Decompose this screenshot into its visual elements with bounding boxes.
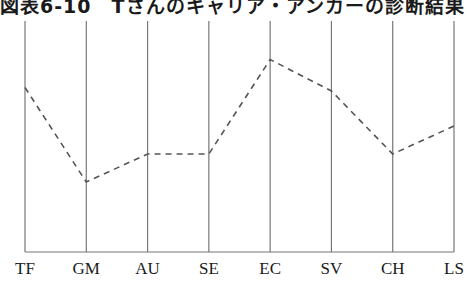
line-chart: [0, 0, 467, 297]
x-tick-label: SV: [321, 259, 343, 279]
x-tick-label: EC: [259, 259, 281, 279]
x-tick-label: TF: [15, 259, 35, 279]
x-tick-label: LS: [444, 259, 464, 279]
category-gridlines: [25, 21, 454, 252]
x-tick-label: AU: [135, 259, 160, 279]
x-tick-label: GM: [73, 259, 100, 279]
x-tick-label: CH: [381, 259, 405, 279]
data-line-dashed: [25, 60, 454, 183]
x-tick-label: SE: [199, 259, 219, 279]
